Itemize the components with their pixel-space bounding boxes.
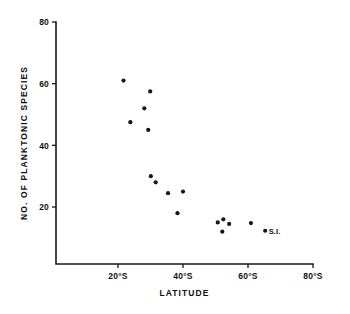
scatter-plot-figure: 20406080 20°S40°S60°S80°S S.I. LATITUDE …	[0, 0, 350, 314]
x-tick-label: 40°S	[173, 271, 192, 281]
x-axis-title: LATITUDE	[159, 288, 209, 298]
data-point	[263, 229, 267, 233]
y-tick-label: 40	[39, 141, 49, 151]
x-tick-label: 80°S	[303, 271, 322, 281]
y-tick-label: 80	[39, 17, 49, 27]
data-point	[149, 174, 153, 178]
y-axis-title: NO. OF PLANKTONIC SPECIES	[19, 66, 29, 220]
data-point-label: S.I.	[269, 227, 281, 236]
data-point	[154, 180, 158, 184]
data-point	[221, 217, 225, 221]
data-point	[227, 222, 231, 226]
data-points: S.I.	[121, 78, 280, 235]
plot-canvas: 20406080 20°S40°S60°S80°S S.I. LATITUDE …	[0, 0, 350, 314]
x-axis-ticks: 20°S40°S60°S80°S	[108, 264, 322, 281]
data-point	[121, 78, 125, 82]
y-tick-label: 60	[39, 79, 49, 89]
data-point	[181, 189, 185, 193]
data-point	[148, 89, 152, 93]
x-tick-label: 20°S	[108, 271, 127, 281]
data-point	[216, 220, 220, 224]
data-point	[175, 211, 179, 215]
data-point	[249, 221, 253, 225]
x-tick-label: 60°S	[238, 271, 257, 281]
data-point	[166, 191, 170, 195]
y-axis-ticks: 20406080	[39, 17, 56, 212]
data-point	[220, 230, 224, 234]
y-tick-label: 20	[39, 202, 49, 212]
data-point	[128, 120, 132, 124]
data-point	[146, 128, 150, 132]
data-point	[142, 106, 146, 110]
